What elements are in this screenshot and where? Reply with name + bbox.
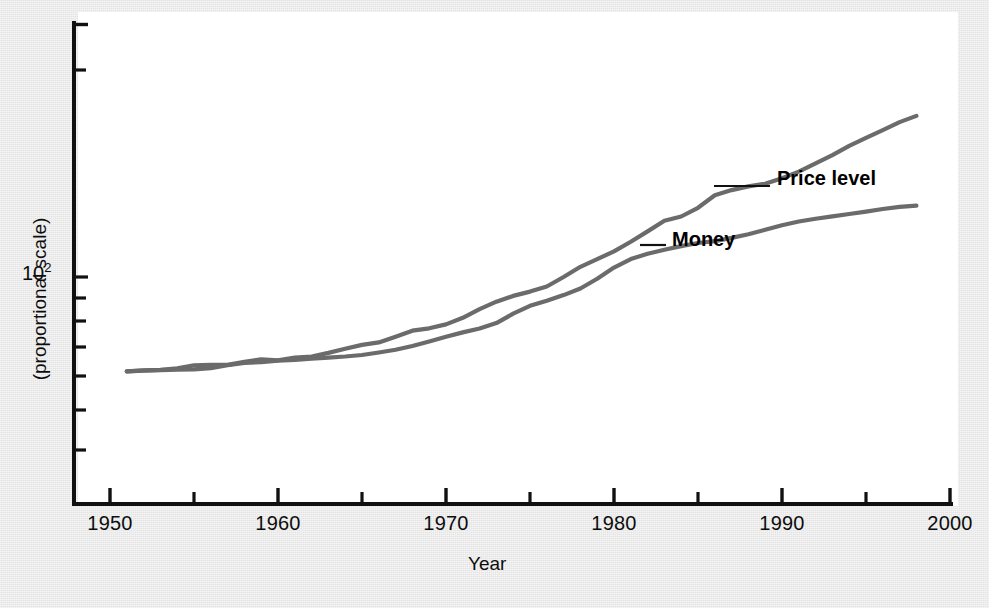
annotation-money: Money <box>672 228 735 251</box>
chart-page: 1950 1960 1970 1980 1990 2000 102 (propo… <box>0 0 989 608</box>
x-tick-label-1950: 1950 <box>70 512 150 535</box>
axis-spines <box>74 23 951 504</box>
x-tick-label-2000: 2000 <box>910 512 989 535</box>
annotation-price-level: Price level <box>777 167 876 190</box>
x-axis-title: Year <box>468 553 506 575</box>
x-tick-label-1980: 1980 <box>574 512 654 535</box>
x-tick-label-1990: 1990 <box>742 512 822 535</box>
x-tick-label-1960: 1960 <box>238 512 318 535</box>
x-tick-label-1970: 1970 <box>406 512 486 535</box>
series-line-price-level <box>127 206 917 372</box>
series-line-money <box>127 116 917 372</box>
y-axis-title: (proportional scale) <box>29 159 51 439</box>
